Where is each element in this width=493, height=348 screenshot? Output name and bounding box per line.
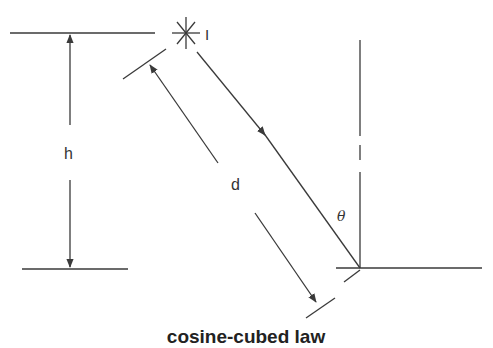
diagram-title: cosine-cubed law xyxy=(167,326,326,347)
cosine-cubed-diagram: I h d θ cosine-cubed law xyxy=(0,0,493,348)
distance-tick-upper xyxy=(123,49,166,79)
star-burst-icon xyxy=(172,17,200,49)
distance-label: d xyxy=(231,176,240,193)
distance-arrow-down xyxy=(255,213,316,302)
angle-label: θ xyxy=(337,208,346,224)
distance-tick-lower xyxy=(306,298,335,318)
distance-tick-dash xyxy=(344,270,360,282)
distance-arrow-up xyxy=(150,65,218,163)
light-ray xyxy=(197,52,265,135)
height-label: h xyxy=(64,145,73,162)
light-ray-continued xyxy=(263,132,360,268)
source-label: I xyxy=(205,26,209,43)
